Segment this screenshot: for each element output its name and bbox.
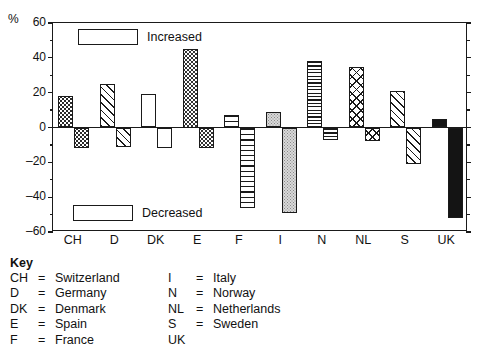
x-tick-label: CH bbox=[64, 233, 82, 247]
key-row: I=Italy bbox=[168, 271, 280, 286]
y-tick-label: –60 bbox=[26, 224, 46, 238]
key-name: Italy bbox=[213, 271, 236, 286]
bar-increased bbox=[390, 91, 405, 128]
key-block: Key CH=SwitzerlandD=GermanyDK=DenmarkE=S… bbox=[10, 256, 472, 345]
bar-increased bbox=[266, 112, 281, 128]
bar-increased bbox=[141, 94, 156, 127]
legend-label-decreased: Decreased bbox=[142, 206, 202, 220]
plot-area: Increased Decreased bbox=[52, 22, 467, 231]
bar-increased bbox=[432, 119, 447, 128]
legend-label-increased: Increased bbox=[147, 30, 202, 44]
key-columns: CH=SwitzerlandD=GermanyDK=DenmarkE=Spain… bbox=[10, 271, 472, 345]
bar-decreased bbox=[323, 128, 338, 140]
x-tick-label: UK bbox=[438, 233, 455, 247]
key-equals: = bbox=[196, 271, 213, 286]
key-row: F=France bbox=[10, 333, 120, 345]
key-name: Sweden bbox=[213, 317, 258, 332]
key-equals: = bbox=[38, 271, 55, 286]
key-abbr: F bbox=[10, 333, 38, 345]
bar-increased bbox=[100, 84, 115, 128]
x-axis-category-labels: CHDDKEFINNLSUK bbox=[52, 233, 467, 249]
bar-group bbox=[385, 23, 427, 230]
bar-decreased bbox=[199, 128, 214, 149]
key-abbr: S bbox=[168, 317, 196, 332]
key-name: France bbox=[55, 333, 94, 345]
x-tick-label: NL bbox=[355, 233, 371, 247]
key-row: NL=Netherlands bbox=[168, 302, 280, 317]
key-equals: = bbox=[196, 302, 213, 317]
y-tick-label: –40 bbox=[26, 189, 46, 203]
key-row: N=Norway bbox=[168, 286, 280, 301]
x-tick-label: I bbox=[279, 233, 282, 247]
bar-decreased bbox=[240, 128, 255, 208]
legend-increased: Increased bbox=[78, 29, 202, 45]
key-abbr: CH bbox=[10, 271, 38, 286]
bar-decreased bbox=[282, 128, 297, 213]
key-abbr: N bbox=[168, 286, 196, 301]
key-equals: = bbox=[38, 317, 55, 332]
x-tick-label: N bbox=[317, 233, 326, 247]
key-row: DK=Denmark bbox=[10, 302, 120, 317]
bar-group bbox=[344, 23, 386, 230]
key-equals: = bbox=[196, 317, 213, 332]
bar-group bbox=[178, 23, 220, 230]
bar-decreased bbox=[406, 128, 421, 165]
key-row: D=Germany bbox=[10, 286, 120, 301]
key-abbr: UK bbox=[168, 333, 196, 345]
y-tick-label: 40 bbox=[33, 50, 46, 64]
bar-increased bbox=[349, 67, 364, 128]
y-tick-label: 60 bbox=[33, 15, 46, 29]
key-abbr: E bbox=[10, 317, 38, 332]
y-tick-label: 20 bbox=[33, 85, 46, 99]
bar-decreased bbox=[365, 128, 380, 142]
bar-series-container bbox=[53, 23, 466, 230]
bar-group bbox=[53, 23, 95, 230]
key-equals: = bbox=[196, 286, 213, 301]
bar-decreased bbox=[74, 128, 89, 149]
x-tick-label: DK bbox=[147, 233, 164, 247]
bar-group bbox=[302, 23, 344, 230]
bar-group bbox=[219, 23, 261, 230]
key-row: CH=Switzerland bbox=[10, 271, 120, 286]
bar-increased bbox=[307, 61, 322, 127]
bar-increased bbox=[183, 49, 198, 127]
key-equals: = bbox=[38, 286, 55, 301]
x-tick-label: E bbox=[193, 233, 201, 247]
key-name: Germany bbox=[55, 286, 106, 301]
legend-decreased: Decreased bbox=[73, 205, 202, 221]
key-equals: = bbox=[38, 302, 55, 317]
bar-group bbox=[261, 23, 303, 230]
x-tick-label: F bbox=[235, 233, 243, 247]
key-row: UK bbox=[168, 333, 280, 345]
legend-swatch-decreased bbox=[73, 205, 133, 221]
key-abbr: DK bbox=[10, 302, 38, 317]
key-name: Denmark bbox=[55, 302, 106, 317]
bar-group bbox=[427, 23, 469, 230]
key-name: Norway bbox=[213, 286, 255, 301]
bar-decreased bbox=[116, 128, 131, 147]
bar-increased bbox=[58, 96, 73, 127]
key-row: S=Sweden bbox=[168, 317, 280, 332]
key-abbr: D bbox=[10, 286, 38, 301]
chart-figure: % 6040200–20–40–60 Increased Decreased C… bbox=[0, 0, 479, 345]
bar-decreased bbox=[157, 128, 172, 149]
key-column: CH=SwitzerlandD=GermanyDK=DenmarkE=Spain… bbox=[10, 271, 120, 345]
y-tick-label: 0 bbox=[39, 120, 46, 134]
key-column: I=ItalyN=NorwayNL=NetherlandsS=SwedenUK bbox=[168, 271, 280, 345]
key-name: Switzerland bbox=[55, 271, 120, 286]
key-equals: = bbox=[38, 333, 55, 345]
bar-decreased bbox=[448, 128, 463, 219]
key-row: E=Spain bbox=[10, 317, 120, 332]
legend-swatch-increased bbox=[78, 29, 138, 45]
bar-increased bbox=[224, 115, 239, 127]
key-title: Key bbox=[10, 256, 472, 270]
x-tick-label: D bbox=[110, 233, 119, 247]
bar-group bbox=[136, 23, 178, 230]
key-abbr: NL bbox=[168, 302, 196, 317]
key-name: Netherlands bbox=[213, 302, 280, 317]
key-name: Spain bbox=[55, 317, 87, 332]
bar-group bbox=[95, 23, 137, 230]
key-abbr: I bbox=[168, 271, 196, 286]
x-tick-label: S bbox=[401, 233, 409, 247]
y-tick-label: –20 bbox=[26, 154, 46, 168]
